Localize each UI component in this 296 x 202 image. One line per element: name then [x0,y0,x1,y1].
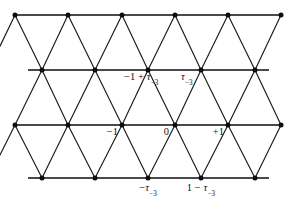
diagonal-edge [42,125,68,178]
diagonal-edge [228,125,255,178]
diagonal-edge [68,70,95,125]
lattice-node-r1-c0 [40,68,45,73]
lattice-node-r3-c2 [146,176,151,181]
lattice-node-r0-c5 [279,13,284,18]
diagonal-edge [255,125,281,178]
lattice-node-r2-c2 [120,123,125,128]
diagonal-edge [148,125,175,178]
diagonal-edge [95,70,122,125]
diagonal-edge [95,15,122,70]
tau-subscript: −3 [185,79,193,87]
diagonal-edge [255,70,281,125]
tau-subscript: −3 [151,79,159,87]
vertex-label-plus-one: +1 [213,127,224,138]
lattice-node-r3-c1 [93,176,98,181]
diagonal-edges-group [0,15,281,178]
lattice-node-r0-c4 [226,13,231,18]
vertex-label-tau: τ−3 [181,72,193,83]
diagonal-edge [122,15,148,70]
diagonal-edge [15,15,42,70]
tau-subscript: −3 [149,190,157,198]
diagonal-edge-left-extension [0,125,15,155]
vertex-label-minus-one: −1 [107,127,118,138]
diagonal-edge [201,15,228,70]
diagonal-edge [255,15,281,70]
label-text-prefix: −1 + [124,71,147,82]
lattice-canvas [0,0,296,202]
lattice-node-r1-c4 [253,68,258,73]
lattice-node-r0-c1 [66,13,71,18]
lattice-node-r2-c3 [173,123,178,128]
vertex-label-minus-one-plus-tau: −1 + τ−3 [124,72,159,83]
lattice-node-r2-c1 [66,123,71,128]
vertex-label-minus-tau: −τ−3 [139,183,157,194]
diagonal-edge [175,125,201,178]
lattice-node-r0-c2 [120,13,125,18]
vertex-label-zero: 0 [164,127,169,138]
diagonal-edge [68,125,95,178]
diagonal-edge [148,15,175,70]
lattice-node-r2-c4 [226,123,231,128]
tau-subscript: −3 [207,190,215,198]
diagonal-edge [42,70,68,125]
label-text-prefix: 1 − [187,182,204,193]
lattice-node-r0-c0 [13,13,18,18]
lattice-node-r2-c0 [13,123,18,128]
lattice-node-r3-c4 [253,176,258,181]
lattice-node-r3-c3 [199,176,204,181]
diagonal-edge [15,70,42,125]
lattice-node-r2-c5 [279,123,284,128]
diagonal-edge [228,70,255,125]
vertex-label-one-minus-tau: 1 − τ−3 [187,183,216,194]
diagonal-edge-left-extension [0,15,15,46]
diagonal-edge [42,15,68,70]
lattice-figure: −1 + τ−3 τ−3 −1 0 +1 −τ−3 1 − τ−3 [0,0,296,202]
lattice-node-r3-c0 [40,176,45,181]
diagonal-edge [201,70,228,125]
diagonal-edge [15,125,42,178]
diagonal-edge [68,15,95,70]
lattice-node-r1-c1 [93,68,98,73]
diagonal-edge [122,125,148,178]
diagonal-edge [175,15,201,70]
lattice-node-r0-c3 [173,13,178,18]
lattice-node-r1-c3 [199,68,204,73]
diagonal-edge [228,15,255,70]
